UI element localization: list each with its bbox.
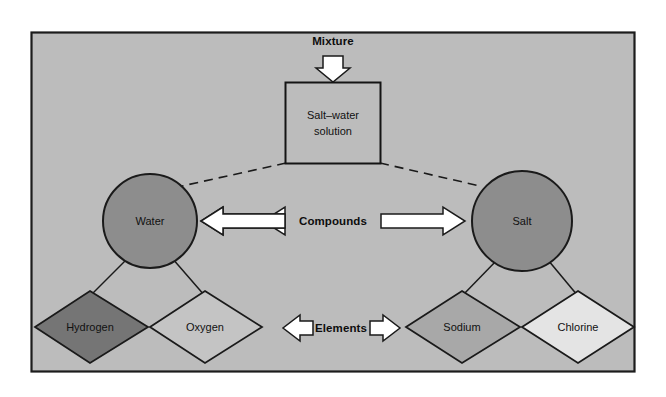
compounds-level-label: Compounds <box>299 215 367 227</box>
mixture-level-label: Mixture <box>312 35 354 47</box>
element-label-oxygen: Oxygen <box>186 321 224 333</box>
mixture-box-label-line2: solution <box>314 125 352 137</box>
figure-root: Mixture Salt–water solution Water Salt C… <box>0 0 666 397</box>
mixture-box-label-line1: Salt–water <box>307 109 359 121</box>
element-label-chlorine: Chlorine <box>558 321 599 333</box>
element-label-hydrogen: Hydrogen <box>66 321 114 333</box>
mixture-box[interactable] <box>286 83 381 164</box>
compound-label-salt: Salt <box>513 215 532 227</box>
elements-level-label: Elements <box>315 322 367 334</box>
element-label-sodium: Sodium <box>443 321 480 333</box>
compound-label-water: Water <box>136 215 165 227</box>
matter-classification-diagram: Mixture Salt–water solution Water Salt C… <box>0 0 666 397</box>
